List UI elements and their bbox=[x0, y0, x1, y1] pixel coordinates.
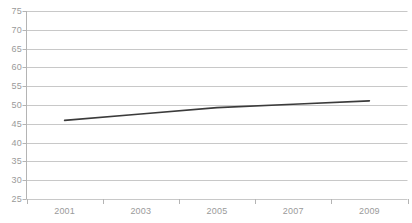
y-axis-tick-label: 30 bbox=[2, 175, 22, 185]
y-axis-tick-label: 25 bbox=[2, 194, 22, 204]
data-series-line bbox=[65, 101, 370, 121]
x-axis-tick-label: 2007 bbox=[273, 206, 313, 216]
line-chart: 2530354045505560657075 20012003200520072… bbox=[0, 0, 412, 223]
gridlines bbox=[27, 12, 408, 200]
x-axis-tick-label: 2001 bbox=[45, 206, 85, 216]
x-axis-tick-label: 2005 bbox=[197, 206, 237, 216]
y-axis-tick-label: 60 bbox=[2, 62, 22, 72]
y-axis-tick-label: 70 bbox=[2, 25, 22, 35]
y-axis-tick-label: 50 bbox=[2, 100, 22, 110]
y-axis-tick-label: 35 bbox=[2, 156, 22, 166]
y-axis-tick-label: 65 bbox=[2, 44, 22, 54]
y-axis-tick-label: 75 bbox=[2, 6, 22, 16]
x-axis-tick-label: 2003 bbox=[121, 206, 161, 216]
x-axis-tick-label: 2009 bbox=[349, 206, 389, 216]
y-axis-tick-label: 45 bbox=[2, 119, 22, 129]
y-axis-tick-label: 55 bbox=[2, 81, 22, 91]
y-axis-tick-label: 40 bbox=[2, 138, 22, 148]
y-axis-ticks bbox=[23, 12, 27, 200]
chart-plot-area bbox=[0, 0, 412, 223]
